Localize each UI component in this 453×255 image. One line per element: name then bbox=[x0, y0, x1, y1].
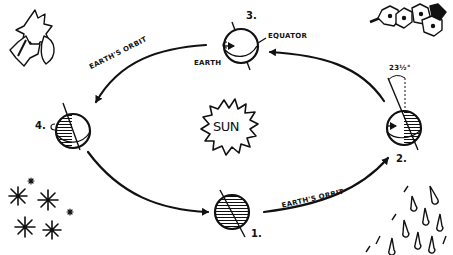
earth-label: EARTH bbox=[194, 59, 221, 67]
earth-position-3 bbox=[223, 22, 266, 70]
equator-label: EQUATOR bbox=[268, 32, 307, 40]
earth-position-1 bbox=[212, 190, 252, 237]
rain-icon bbox=[366, 186, 446, 255]
sun-label: SUN bbox=[213, 119, 239, 134]
earth-position-4 bbox=[51, 103, 90, 150]
snowflakes-icon bbox=[9, 178, 73, 239]
position-number-1: 1. bbox=[251, 228, 262, 239]
flowers-icon bbox=[370, 4, 446, 36]
orbit-arrow-4-to-1 bbox=[88, 152, 208, 212]
tilt-angle-label: 23½° bbox=[389, 64, 411, 72]
orbit-arrow-2-to-3 bbox=[270, 52, 384, 101]
position-number-3: 3. bbox=[246, 10, 257, 21]
position-number-4: 4. bbox=[35, 120, 46, 131]
position-number-2: 2. bbox=[396, 153, 407, 164]
earth-orbit-diagram: SUN EARTH'S ORBIT EARTH'S ORBIT 1. 2. 3.… bbox=[0, 0, 453, 255]
earth-position-2 bbox=[387, 75, 424, 150]
leaves-icon bbox=[10, 10, 54, 66]
